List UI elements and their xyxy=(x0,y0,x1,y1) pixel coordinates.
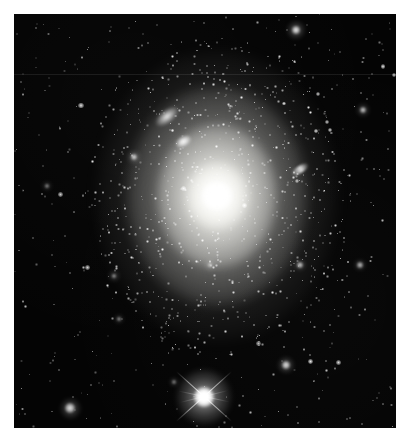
scanline-artifact xyxy=(14,74,396,75)
star-core xyxy=(194,387,214,407)
image-frame xyxy=(0,0,413,445)
astronomical-plate xyxy=(14,14,396,428)
foreground-star-with-diffraction-spikes xyxy=(169,362,239,428)
